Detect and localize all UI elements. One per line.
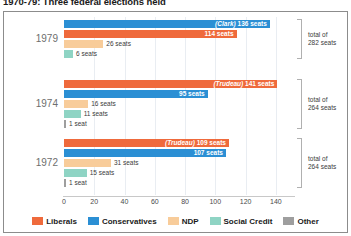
total-seats-label-1974: total of264 seats: [308, 96, 336, 112]
legend-swatch-icon: [168, 217, 179, 225]
bar-social-credit[interactable]: [64, 50, 73, 58]
bar-group-1974: (Trudeau) 141 seats95 seats16 seats11 se…: [64, 80, 294, 130]
total-bracket-1974: [297, 79, 302, 129]
x-tick-label: 0: [62, 198, 66, 205]
chart-legend: LiberalsConservativesNDPSocial CreditOth…: [4, 211, 347, 231]
year-label-1972: 1972: [20, 157, 58, 168]
chart-panel: (Clark) 136 seats114 seats26 seats6 seat…: [3, 11, 348, 233]
bar-value-label: 15 seats: [90, 168, 115, 177]
legend-item-conservatives[interactable]: Conservatives: [88, 217, 157, 226]
bar-ndp[interactable]: [64, 40, 103, 48]
legend-label: Other: [297, 217, 318, 226]
year-label-1979: 1979: [20, 33, 58, 44]
bar-row: 11 seats: [64, 110, 294, 118]
bar-row: 15 seats: [64, 169, 294, 177]
x-axis-line: [63, 196, 295, 197]
legend-label: Liberals: [46, 217, 77, 226]
bar-row: (Trudeau) 141 seats: [64, 80, 294, 88]
bar-leader-name: (Clark): [215, 20, 237, 27]
total-label-line1: total of: [308, 96, 336, 104]
bar-row: 107 seats: [64, 149, 294, 157]
total-bracket-1972: [297, 138, 302, 188]
page-title: 1970-79: Three federal elections held: [3, 0, 166, 7]
bar-row: 1 seat: [64, 179, 294, 187]
legend-item-social-credit[interactable]: Social Credit: [210, 217, 273, 226]
legend-item-liberals[interactable]: Liberals: [32, 217, 77, 226]
bar-row: 26 seats: [64, 40, 294, 48]
bar-value-label: (Trudeau) 141 seats: [213, 79, 274, 88]
bar-row: 16 seats: [64, 100, 294, 108]
legend-label: NDP: [182, 217, 199, 226]
bar-value-label: 16 seats: [91, 99, 116, 108]
bar-row: (Trudeau) 109 seats: [64, 139, 294, 147]
x-tick-label: 20: [90, 198, 98, 205]
bar-row: 114 seats: [64, 30, 294, 38]
x-tick-label: 40: [121, 198, 129, 205]
legend-item-ndp[interactable]: NDP: [168, 217, 199, 226]
legend-swatch-icon: [32, 217, 43, 225]
bar-value-label: 11 seats: [84, 109, 108, 118]
bar-other[interactable]: [64, 179, 66, 187]
x-tick-label: 140: [270, 198, 282, 205]
bar-value-label: 107 seats: [194, 148, 223, 157]
x-tick-label: 100: [209, 198, 221, 205]
legend-label: Social Credit: [224, 217, 273, 226]
bar-row: 31 seats: [64, 159, 294, 167]
bar-social-credit[interactable]: [64, 169, 87, 177]
bar-row: (Clark) 136 seats: [64, 20, 294, 28]
bar-ndp[interactable]: [64, 100, 88, 108]
year-label-1974: 1974: [20, 98, 58, 109]
plot-area: (Clark) 136 seats114 seats26 seats6 seat…: [64, 17, 294, 195]
x-axis: 020406080100120140: [64, 196, 294, 210]
bar-ndp[interactable]: [64, 159, 111, 167]
total-label-line1: total of: [308, 155, 336, 163]
bar-value-label: 31 seats: [114, 158, 139, 167]
bar-value-label: 26 seats: [106, 39, 131, 48]
bar-value-label: 1 seat: [69, 119, 87, 128]
bar-value-label: (Trudeau) 109 seats: [165, 138, 226, 147]
bar-groups: (Clark) 136 seats114 seats26 seats6 seat…: [64, 17, 294, 195]
bar-leader-name: (Trudeau): [213, 80, 245, 87]
bar-value-label: (Clark) 136 seats: [215, 19, 267, 28]
legend-swatch-icon: [210, 217, 221, 225]
legend-swatch-icon: [283, 217, 294, 225]
legend-label: Conservatives: [102, 217, 157, 226]
bar-row: 1 seat: [64, 120, 294, 128]
x-tick-label: 120: [240, 198, 252, 205]
legend-item-other[interactable]: Other: [283, 217, 318, 226]
total-bracket-1979: [297, 19, 302, 59]
chart-page: 1970-79: Three federal elections held (C…: [0, 0, 351, 236]
bar-value-label: 114 seats: [205, 29, 234, 38]
total-label-line2: 264 seats: [308, 104, 336, 112]
total-label-line1: total of: [308, 31, 336, 39]
bar-group-1979: (Clark) 136 seats114 seats26 seats6 seat…: [64, 20, 294, 60]
bar-row: 6 seats: [64, 50, 294, 58]
bar-value-label: 95 seats: [179, 89, 205, 98]
bar-other[interactable]: [64, 120, 66, 128]
bar-leader-name: (Trudeau): [165, 139, 197, 146]
bar-group-1972: (Trudeau) 109 seats107 seats31 seats15 s…: [64, 139, 294, 189]
x-tick-label: 80: [181, 198, 189, 205]
total-label-line2: 264 seats: [308, 163, 336, 171]
x-tick-label: 60: [151, 198, 159, 205]
total-seats-label-1972: total of264 seats: [308, 155, 336, 171]
total-seats-label-1979: total of282 seats: [308, 31, 336, 47]
legend-swatch-icon: [88, 217, 99, 225]
bar-value-label: 1 seat: [69, 178, 87, 187]
bar-social-credit[interactable]: [64, 110, 81, 118]
total-label-line2: 282 seats: [308, 39, 336, 47]
bar-row: 95 seats: [64, 90, 294, 98]
bar-value-label: 6 seats: [76, 49, 97, 58]
